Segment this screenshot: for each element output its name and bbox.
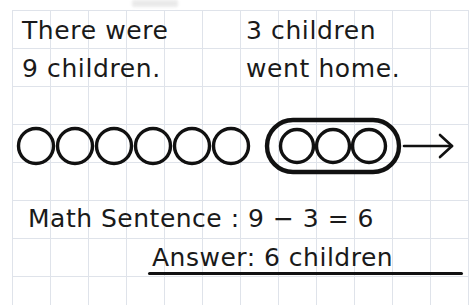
circle-2	[58, 129, 93, 164]
grouped-circle-3	[353, 130, 386, 163]
math-sentence-text: Math Sentence : 9 − 3 = 6	[28, 206, 374, 231]
circle-5	[175, 129, 210, 164]
grouped-circles-group	[281, 130, 386, 163]
circle-1	[19, 129, 54, 164]
circle-4	[136, 129, 171, 164]
ungrouped-circles-group	[19, 129, 249, 164]
answer-text: Answer: 6 children	[152, 245, 393, 270]
circle-3	[97, 129, 132, 164]
removal-arrow-icon	[404, 135, 452, 157]
grouped-circle-1	[281, 130, 314, 163]
circle-6	[214, 129, 249, 164]
math-worksheet-page: There were 9 children. 3 children went h…	[0, 0, 469, 305]
answer-underline	[148, 272, 463, 275]
grouped-circle-2	[317, 130, 350, 163]
